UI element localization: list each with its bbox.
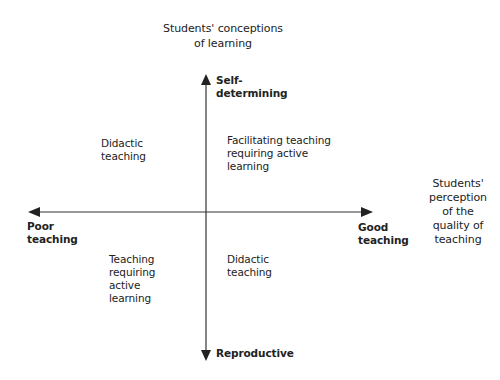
quadrant-top-left-line1: Didactic: [101, 137, 146, 150]
quadrant-top-right: Facilitating teaching requiring active l…: [227, 134, 331, 173]
vertical-axis-title-line2: of learning: [148, 36, 298, 51]
horizontal-axis-title-line5: teaching: [420, 233, 496, 247]
right-pole-label-line1: Good: [358, 221, 409, 234]
quadrant-top-right-line2: requiring active: [227, 147, 331, 160]
bottom-pole-label: Reproductive: [216, 347, 294, 360]
arrow-down-icon: [201, 350, 211, 361]
vertical-axis-title: Students' conceptions of learning: [148, 21, 298, 51]
horizontal-axis-title-line1: Students': [420, 177, 496, 191]
arrow-right-icon: [361, 207, 373, 217]
bottom-pole-label-text: Reproductive: [216, 347, 294, 360]
vertical-axis-title-line1: Students' conceptions: [148, 21, 298, 36]
quadrant-bottom-right: Didactic teaching: [227, 253, 272, 279]
horizontal-axis-title-line4: quality of: [420, 219, 496, 233]
left-pole-label-line2: teaching: [27, 233, 78, 246]
quadrant-bottom-left-line1: Teaching: [109, 253, 155, 266]
quadrant-top-left-line2: teaching: [101, 150, 146, 163]
right-pole-label: Good teaching: [358, 221, 409, 247]
top-pole-label-line1: Self-: [216, 74, 287, 87]
arrow-left-icon: [28, 207, 40, 217]
right-pole-label-line2: teaching: [358, 234, 409, 247]
top-pole-label: Self- determining: [216, 74, 287, 100]
quadrant-bottom-left-line3: active: [109, 279, 155, 292]
quadrant-top-right-line1: Facilitating teaching: [227, 134, 331, 147]
horizontal-axis-title: Students' perception of the quality of t…: [420, 177, 496, 247]
quadrant-top-right-line3: learning: [227, 160, 331, 173]
quadrant-bottom-left-line4: learning: [109, 292, 155, 305]
quadrant-bottom-left: Teaching requiring active learning: [109, 253, 155, 305]
arrow-up-icon: [201, 74, 211, 85]
left-pole-label-line1: Poor: [27, 220, 78, 233]
horizontal-axis-title-line2: perception: [420, 191, 496, 205]
horizontal-axis-title-line3: of the: [420, 205, 496, 219]
left-pole-label: Poor teaching: [27, 220, 78, 246]
quadrant-bottom-left-line2: requiring: [109, 266, 155, 279]
quadrant-bottom-right-line1: Didactic: [227, 253, 272, 266]
quadrant-top-left: Didactic teaching: [101, 137, 146, 163]
quadrant-bottom-right-line2: teaching: [227, 266, 272, 279]
top-pole-label-line2: determining: [216, 87, 287, 100]
